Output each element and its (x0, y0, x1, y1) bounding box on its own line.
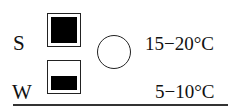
swatch-box-s (47, 13, 81, 47)
row-label-w: W (12, 82, 32, 103)
row-label-s: S (13, 33, 25, 54)
temperature-w: 5−10°C (155, 82, 215, 101)
baseline-divider (13, 104, 228, 106)
swatch-fill-w (51, 76, 77, 90)
open-circle-icon (97, 35, 131, 69)
temperature-s: 15−20°C (145, 34, 214, 53)
swatch-box-w (47, 60, 81, 94)
swatch-fill-s (51, 17, 77, 43)
